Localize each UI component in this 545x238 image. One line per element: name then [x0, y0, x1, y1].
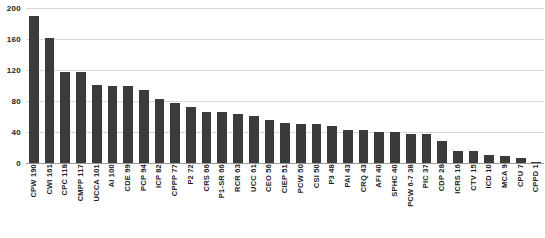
bar-AI[interactable]	[108, 86, 118, 164]
bar-slot	[199, 8, 215, 163]
x-axis-label-CRQ: CRQ 43	[360, 164, 368, 192]
x-axis-label-CPPD: CPPD 1	[532, 164, 540, 192]
x-axis-label-UCC: UCC 61	[250, 164, 258, 192]
x-axis-label-PAI: PAI 43	[344, 164, 352, 188]
bar-CMPP[interactable]	[76, 72, 86, 163]
bar-CSI[interactable]	[312, 124, 322, 163]
x-tick-slot: CPW 190	[26, 164, 42, 238]
bar-AFI[interactable]	[374, 132, 384, 163]
bar-PIC[interactable]	[422, 134, 432, 163]
x-tick-slot: CMPP 117	[73, 164, 89, 238]
y-axis: 04080120160200	[0, 8, 24, 163]
bar-MCA[interactable]	[500, 156, 510, 163]
x-tick-slot: PCW 6-7 38	[403, 164, 419, 238]
bar-slot	[497, 8, 513, 163]
x-axis-label-CEO: CEO 56	[265, 164, 273, 192]
bar-slot	[371, 8, 387, 163]
bar-slot	[513, 8, 529, 163]
x-tick-slot: PIC 37	[419, 164, 435, 238]
x-axis-label-P2: P2 72	[187, 164, 195, 185]
bar-slot	[419, 8, 435, 163]
bar-slot	[136, 8, 152, 163]
bar-P2[interactable]	[186, 107, 196, 163]
bar-CRS[interactable]	[202, 112, 212, 163]
cropped-title-sliver	[300, 0, 545, 4]
bar-slot	[277, 8, 293, 163]
bar-slot	[152, 8, 168, 163]
x-axis-label-CMPP: CMPP 117	[77, 164, 85, 201]
bar-RCR[interactable]	[233, 114, 243, 163]
x-axis-label-CDP: CDP 28	[438, 164, 446, 191]
bar-P3[interactable]	[327, 126, 337, 163]
bar-CPC[interactable]	[60, 72, 70, 163]
x-tick-slot: PCP 94	[136, 164, 152, 238]
x-axis-label-CPU: CPU 7	[517, 164, 525, 187]
bar-series	[26, 8, 544, 163]
plot-area: 04080120160200	[0, 8, 545, 163]
bar-UCC[interactable]	[249, 116, 259, 163]
x-tick-slot: P3 48	[324, 164, 340, 238]
bar-slot	[42, 8, 58, 163]
x-axis-label-CPW: CPW 190	[30, 164, 38, 198]
x-tick-slot: CRQ 43	[356, 164, 372, 238]
x-axis-label-UCCA: UCCA 101	[93, 164, 101, 202]
bar-PCW 6-7[interactable]	[406, 134, 416, 163]
x-tick-slot: CIEP 51	[277, 164, 293, 238]
bar-ICRS[interactable]	[453, 151, 463, 163]
x-axis-label-CSI: CSI 50	[313, 164, 321, 188]
x-tick-slot: P1-SR 66	[214, 164, 230, 238]
x-axis-label-CPPP: CPPP 77	[171, 164, 179, 196]
bar-PCW[interactable]	[296, 124, 306, 163]
bar-slot	[246, 8, 262, 163]
bar-slot	[403, 8, 419, 163]
bar-slot	[356, 8, 372, 163]
bar-slot	[73, 8, 89, 163]
x-tick-slot: CWI 161	[42, 164, 58, 238]
bar-slot	[89, 8, 105, 163]
x-tick-slot: SPHC 40	[387, 164, 403, 238]
bar-CTV[interactable]	[469, 151, 479, 163]
x-axis-label-P1-SR: P1-SR 66	[218, 164, 226, 198]
x-tick-slot: CPPD 1	[529, 164, 545, 238]
bar-ICP[interactable]	[155, 99, 165, 163]
y-axis-tick-160: 160	[7, 35, 21, 44]
bar-CEO[interactable]	[265, 120, 275, 163]
x-tick-slot: ICP 82	[152, 164, 168, 238]
x-axis: CPW 190CWI 161CPC 118CMPP 117UCCA 101AI …	[26, 164, 544, 238]
bar-CDP[interactable]	[437, 141, 447, 163]
x-axis-label-ICP: ICP 82	[155, 164, 163, 188]
bar-CDE[interactable]	[123, 86, 133, 163]
bar-SPHC[interactable]	[390, 132, 400, 163]
bar-ICD[interactable]	[484, 155, 494, 163]
x-tick-slot: AI 100	[105, 164, 121, 238]
bar-CPPD[interactable]	[531, 162, 541, 163]
bar-slot	[340, 8, 356, 163]
bar-slot	[309, 8, 325, 163]
bar-slot	[481, 8, 497, 163]
bar-slot	[324, 8, 340, 163]
x-tick-slot: P2 72	[183, 164, 199, 238]
y-axis-tick-80: 80	[12, 97, 22, 106]
bar-CPW[interactable]	[29, 16, 39, 163]
bar-P1-SR[interactable]	[217, 112, 227, 163]
bar-slot	[105, 8, 121, 163]
x-axis-label-SPHC: SPHC 40	[391, 164, 399, 197]
bar-slot	[293, 8, 309, 163]
x-axis-label-AI: AI 100	[108, 164, 116, 187]
bar-slot	[214, 8, 230, 163]
bar-PCP[interactable]	[139, 90, 149, 163]
x-axis-label-CPC: CPC 118	[61, 164, 69, 195]
bar-PAI[interactable]	[343, 130, 353, 163]
y-axis-tick-120: 120	[7, 66, 21, 75]
x-tick-slot: AFI 40	[371, 164, 387, 238]
bar-UCCA[interactable]	[92, 85, 102, 163]
bar-CPU[interactable]	[516, 158, 526, 163]
bar-CIEP[interactable]	[280, 123, 290, 163]
x-axis-label-CTV: CTV 15	[470, 164, 478, 191]
x-tick-slot: CDE 99	[120, 164, 136, 238]
x-tick-slot: CTV 15	[466, 164, 482, 238]
x-axis-label-PCW: PCW 50	[297, 164, 305, 193]
bar-CRQ[interactable]	[359, 130, 369, 163]
bar-CWI[interactable]	[45, 38, 55, 163]
bar-CPPP[interactable]	[170, 103, 180, 163]
